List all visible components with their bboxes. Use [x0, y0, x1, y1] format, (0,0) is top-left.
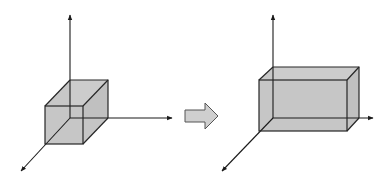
box-solid: [259, 67, 359, 131]
left-panel-cube: [21, 15, 172, 171]
scaling-diagram: [0, 0, 390, 177]
right-block-arrow-icon: [185, 103, 218, 129]
right-panel-box: [222, 15, 373, 171]
depth-axis: [222, 118, 273, 171]
